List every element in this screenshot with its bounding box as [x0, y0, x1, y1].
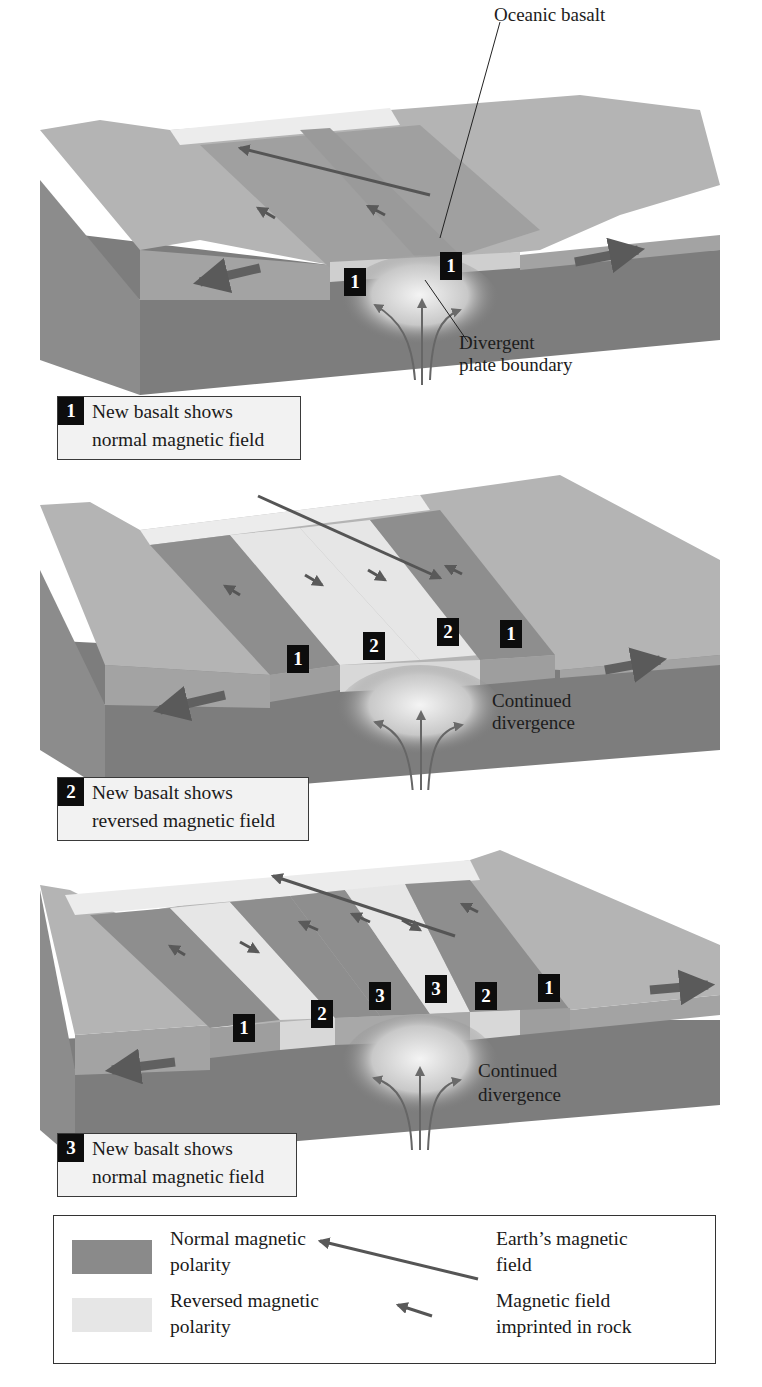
- step-number-badge: 2: [58, 778, 84, 806]
- stripe-badge: 3: [369, 982, 391, 1010]
- continued-divergence-label-line2: divergence: [478, 1084, 561, 1106]
- caption-line: New basalt shows: [92, 398, 264, 426]
- earth-magnetic-field-label: Earth’s magnetic field: [496, 1226, 628, 1278]
- stripe-badge: 2: [363, 632, 385, 660]
- imprinted-field-label: Magnetic field imprinted in rock: [496, 1288, 631, 1340]
- stripe-badge: 1: [538, 974, 560, 1002]
- stripe-badge: 1: [233, 1014, 255, 1042]
- step-number-badge: 1: [58, 397, 84, 425]
- continued-divergence-label-line2: divergence: [492, 712, 575, 734]
- legend-box: Normal magnetic polarity Reversed magnet…: [53, 1215, 716, 1364]
- divergent-boundary-label-line2: plate boundary: [459, 354, 572, 376]
- short-arrow-icon: [398, 1305, 432, 1316]
- stripe-badge: 1: [287, 645, 309, 673]
- oceanic-basalt-label: Oceanic basalt: [494, 4, 605, 26]
- caption-line: New basalt shows: [92, 779, 275, 807]
- step-number-badge: 3: [58, 1134, 84, 1162]
- stripe-badge: 3: [425, 975, 447, 1003]
- caption-step-3: 3 New basalt shows normal magnetic field: [57, 1133, 297, 1197]
- continued-divergence-label-line1: Continued: [478, 1060, 557, 1082]
- caption-line: New basalt shows: [92, 1135, 264, 1163]
- continued-divergence-label-line1: Continued: [492, 690, 571, 712]
- panel-3-diagram: Continued divergence 1 2 3 3 2 1: [0, 840, 762, 1170]
- caption-line: reversed magnetic field: [92, 807, 275, 835]
- stripe-badge: 1: [344, 268, 366, 296]
- stripe-badge: 2: [475, 982, 497, 1010]
- divergent-boundary-label-line1: Divergent: [459, 332, 535, 354]
- stripe-badge: 1: [500, 620, 522, 648]
- long-arrow-icon: [320, 1241, 478, 1279]
- caption-step-2: 2 New basalt shows reversed magnetic fie…: [57, 777, 309, 841]
- block-diagram-2: [0, 450, 762, 790]
- stripe-badge: 1: [440, 252, 462, 280]
- panel-2-diagram: Continued divergence 1 2 2 1: [0, 450, 762, 790]
- caption-line: normal magnetic field: [92, 1163, 264, 1191]
- stripe-badge: 2: [437, 618, 459, 646]
- stripe-badge: 2: [311, 1000, 333, 1028]
